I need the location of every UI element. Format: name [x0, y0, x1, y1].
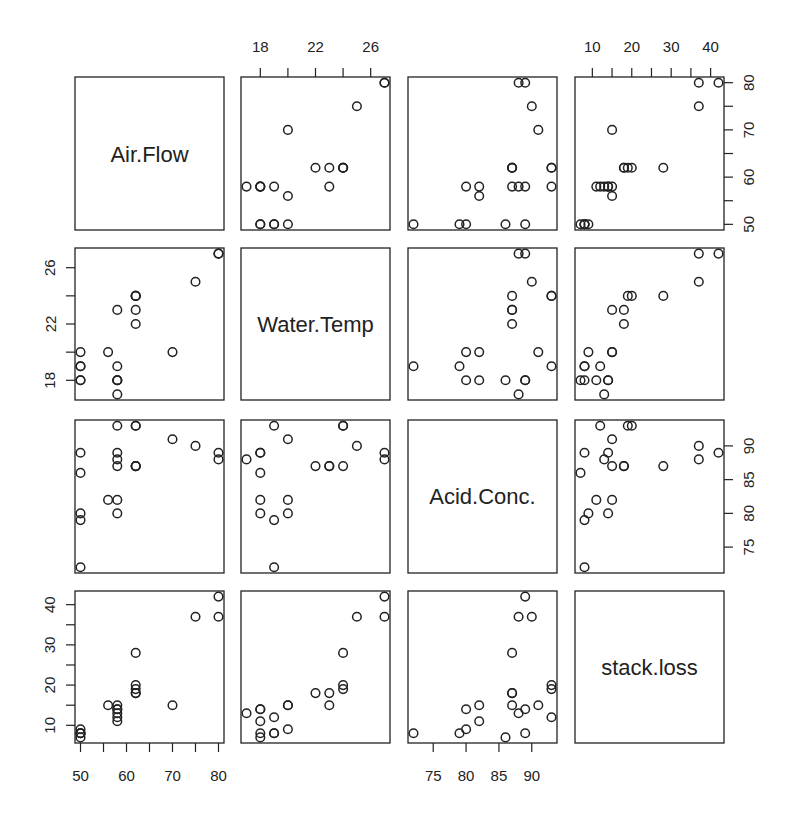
- data-point: [462, 705, 471, 714]
- data-point: [131, 421, 140, 430]
- tick-label: 20: [623, 38, 640, 55]
- data-point: [104, 496, 113, 505]
- data-point: [113, 376, 122, 385]
- data-point: [501, 733, 510, 742]
- tick-label: 22: [307, 38, 324, 55]
- data-point: [104, 701, 113, 710]
- data-point: [534, 126, 543, 135]
- data-point: [270, 182, 279, 191]
- data-point: [576, 469, 585, 478]
- data-point: [339, 163, 348, 172]
- data-point: [659, 292, 668, 301]
- data-point: [462, 725, 471, 734]
- tick-label: 50: [72, 767, 89, 784]
- panel-air-flow-vs-acid-conc: [408, 77, 557, 230]
- data-point: [325, 462, 334, 471]
- left-axis-water-temp: 182226: [42, 259, 76, 388]
- data-point: [113, 306, 122, 315]
- data-point: [600, 455, 609, 464]
- data-point: [501, 376, 510, 385]
- panel-frame: [241, 591, 390, 743]
- data-point: [608, 435, 617, 444]
- panel-air-flow-vs-stack-loss: [575, 77, 724, 230]
- data-point: [521, 729, 530, 738]
- data-point: [311, 462, 320, 471]
- data-point: [521, 592, 530, 601]
- data-point: [695, 78, 704, 87]
- tick-label: 60: [741, 169, 758, 186]
- data-point: [475, 348, 484, 357]
- data-point: [353, 442, 362, 451]
- data-point: [592, 496, 601, 505]
- data-point: [508, 689, 517, 698]
- data-point: [242, 709, 251, 718]
- data-point: [270, 220, 279, 229]
- data-point: [256, 717, 265, 726]
- tick-label: 10: [584, 38, 601, 55]
- tick-label: 18: [252, 38, 269, 55]
- data-point: [325, 689, 334, 698]
- tick-label: 85: [741, 471, 758, 488]
- data-point: [284, 509, 293, 518]
- tick-label: 30: [42, 637, 59, 654]
- data-point: [508, 163, 517, 172]
- data-point: [380, 592, 389, 601]
- data-point: [131, 292, 140, 301]
- tick-label: 80: [741, 505, 758, 522]
- data-point: [547, 163, 556, 172]
- data-point: [76, 563, 85, 572]
- data-point: [620, 462, 629, 471]
- right-axis-air-flow: 50607080: [724, 74, 758, 232]
- tick-label: 90: [741, 438, 758, 455]
- data-point: [514, 612, 523, 621]
- data-point: [514, 390, 523, 399]
- data-point: [508, 701, 517, 710]
- panel-acid-conc-vs-air-flow: [75, 420, 224, 573]
- data-point: [325, 163, 334, 172]
- data-point: [604, 509, 613, 518]
- data-point: [270, 713, 279, 722]
- data-point: [714, 78, 723, 87]
- data-point: [608, 306, 617, 315]
- data-point: [256, 182, 265, 191]
- scatterplot-matrix: 1822261020304050607080758085901822261020…: [0, 0, 797, 823]
- data-point: [608, 496, 617, 505]
- data-point: [475, 376, 484, 385]
- data-point: [528, 612, 537, 621]
- panels: [75, 77, 724, 743]
- data-point: [311, 689, 320, 698]
- data-point: [353, 612, 362, 621]
- tick-label: 70: [741, 122, 758, 139]
- data-point: [131, 462, 140, 471]
- data-point: [695, 442, 704, 451]
- diag-label-water-temp: Water.Temp: [257, 312, 374, 337]
- panel-frame: [241, 77, 390, 230]
- panel-water-temp-vs-acid-conc: [408, 248, 557, 400]
- data-point: [284, 701, 293, 710]
- data-point: [284, 435, 293, 444]
- tick-label: 80: [210, 767, 227, 784]
- data-point: [528, 278, 537, 287]
- data-point: [455, 362, 464, 371]
- tick-label: 80: [458, 767, 475, 784]
- data-point: [508, 292, 517, 301]
- panel-frame: [575, 248, 724, 400]
- data-point: [508, 306, 517, 315]
- data-point: [659, 462, 668, 471]
- data-point: [596, 362, 605, 371]
- data-point: [695, 278, 704, 287]
- diag-label-stack-loss: stack.loss: [601, 655, 698, 680]
- data-point: [547, 182, 556, 191]
- data-point: [659, 163, 668, 172]
- data-point: [168, 435, 177, 444]
- bottom-axis-air-flow: 50607080: [72, 743, 227, 784]
- data-point: [113, 390, 122, 399]
- tick-label: 20: [42, 677, 59, 694]
- top-axis-stack-loss: 10203040: [584, 38, 719, 77]
- data-point: [580, 563, 589, 572]
- panel-frame: [75, 591, 224, 743]
- data-point: [256, 509, 265, 518]
- panel-stack-loss-vs-water-temp: [241, 591, 390, 743]
- data-point: [534, 701, 543, 710]
- data-point: [547, 292, 556, 301]
